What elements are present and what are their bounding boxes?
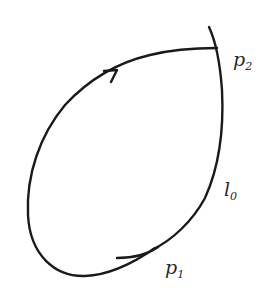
trajectory-diagram [0,0,269,301]
trajectory-tail [117,247,158,258]
section-curve-l0 [152,27,222,250]
direction-arrow-icon [104,70,117,82]
trajectory-loop [28,48,217,276]
label-p1: p1 [165,258,184,280]
label-l0: l0 [224,180,237,202]
label-p2: p2 [233,50,252,72]
